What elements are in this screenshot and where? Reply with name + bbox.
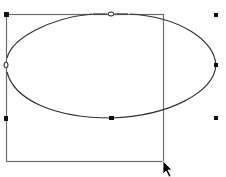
drawing-canvas[interactable] xyxy=(0,0,226,177)
ellipse-shape[interactable] xyxy=(7,14,216,118)
handle-bottom-left[interactable] xyxy=(4,116,8,121)
handle-bottom-right[interactable] xyxy=(214,116,218,120)
handle-bottom-middle[interactable] xyxy=(109,116,114,120)
handle-top-right[interactable] xyxy=(214,13,218,17)
handle-top-left[interactable] xyxy=(4,12,9,17)
handle-top-middle[interactable] xyxy=(108,12,114,16)
handle-left-middle[interactable] xyxy=(4,62,8,68)
mouse-cursor-arrow-icon xyxy=(163,161,172,177)
handle-right-middle[interactable] xyxy=(214,63,218,67)
resize-outline-rectangle xyxy=(7,15,164,162)
